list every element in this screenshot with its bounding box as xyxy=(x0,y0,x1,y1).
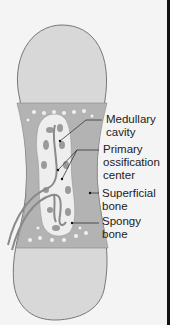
label-spongy-bone: Spongy bone xyxy=(102,215,141,241)
page-edge xyxy=(167,0,170,325)
label-superficial-bone: Superficial bone xyxy=(102,187,156,213)
label-medullary-cavity: Medullary cavity xyxy=(106,113,156,139)
label-primary-ossification-center: Primary ossification center xyxy=(103,143,160,182)
